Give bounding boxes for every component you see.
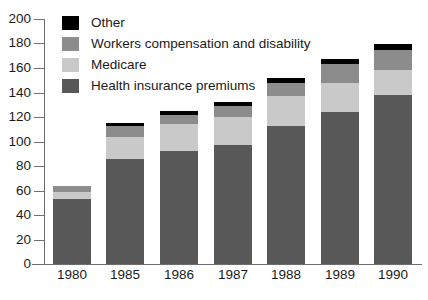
- bar-segment-health-insurance-premiums: [160, 151, 198, 264]
- bar-segment-workers-compensation: [106, 126, 144, 137]
- x-axis-label: 1987: [203, 268, 263, 282]
- bar-segment-medicare: [374, 70, 412, 95]
- bar-segment-health-insurance-premiums: [321, 112, 359, 264]
- legend-swatch-medicare: [62, 58, 79, 72]
- x-axis-label: 1980: [42, 268, 102, 282]
- bar-segment-health-insurance-premiums: [214, 145, 252, 264]
- bar-segment-workers-compensation: [160, 115, 198, 125]
- bar-segment-workers-compensation: [321, 64, 359, 82]
- y-axis-tick: [34, 215, 44, 216]
- legend-item-label: Health insurance premiums: [91, 79, 255, 93]
- y-axis-tick: [34, 19, 44, 20]
- y-axis-label: 0: [0, 257, 31, 271]
- bar-segment-health-insurance-premiums: [106, 159, 144, 264]
- y-axis-label: 160: [0, 61, 31, 75]
- bar-segment-medicare: [267, 96, 305, 125]
- y-axis-label: 200: [0, 12, 31, 26]
- y-axis-label: 20: [0, 233, 31, 247]
- legend-swatch-health: [62, 79, 79, 93]
- x-axis-line: [32, 264, 422, 265]
- x-axis-label: 1988: [256, 268, 316, 282]
- y-axis-label: 100: [0, 135, 31, 149]
- bar-segment-health-insurance-premiums: [374, 95, 412, 264]
- x-axis-label: 1986: [149, 268, 209, 282]
- y-axis-tick: [34, 43, 44, 44]
- x-axis-label: 1990: [363, 268, 423, 282]
- legend-item-label: Workers compensation and disability: [91, 37, 311, 51]
- legend-swatch-other: [62, 16, 79, 30]
- y-axis-tick: [34, 264, 44, 265]
- y-axis-label: 60: [0, 184, 31, 198]
- y-axis-label: 120: [0, 110, 31, 124]
- legend-item[interactable]: Other: [62, 12, 311, 33]
- legend-item-label: Other: [91, 16, 125, 30]
- y-axis-label: 80: [0, 159, 31, 173]
- y-axis-tick: [34, 166, 44, 167]
- y-axis-tick: [34, 93, 44, 94]
- legend-item[interactable]: Medicare: [62, 54, 311, 75]
- bar-segment-medicare: [106, 137, 144, 159]
- bar-segment-medicare: [214, 117, 252, 145]
- x-axis-label: 1985: [95, 268, 155, 282]
- y-axis-label: 180: [0, 36, 31, 50]
- bar-1989: [321, 19, 359, 264]
- y-axis-tick: [34, 191, 44, 192]
- bar-segment-medicare: [53, 192, 91, 199]
- bar-segment-health-insurance-premiums: [267, 126, 305, 264]
- chart-legend: OtherWorkers compensation and disability…: [62, 12, 311, 96]
- y-axis-tick: [34, 240, 44, 241]
- legend-item[interactable]: Workers compensation and disability: [62, 33, 311, 54]
- stacked-bar-chart: 200180160140120100806040200 198019851986…: [0, 0, 428, 300]
- bar-segment-health-insurance-premiums: [53, 199, 91, 264]
- y-axis-tick: [34, 117, 44, 118]
- legend-item[interactable]: Health insurance premiums: [62, 75, 311, 96]
- bar-segment-medicare: [321, 83, 359, 112]
- x-axis-label: 1989: [310, 268, 370, 282]
- legend-swatch-workers: [62, 37, 79, 51]
- bar-segment-medicare: [160, 124, 198, 151]
- y-axis-tick: [34, 68, 44, 69]
- legend-item-label: Medicare: [91, 58, 147, 72]
- bar-segment-workers-compensation: [374, 50, 412, 71]
- y-axis-label: 40: [0, 208, 31, 222]
- y-axis-label: 140: [0, 86, 31, 100]
- bar-segment-workers-compensation: [214, 106, 252, 117]
- bar-1990: [374, 19, 412, 264]
- y-axis-tick: [34, 142, 44, 143]
